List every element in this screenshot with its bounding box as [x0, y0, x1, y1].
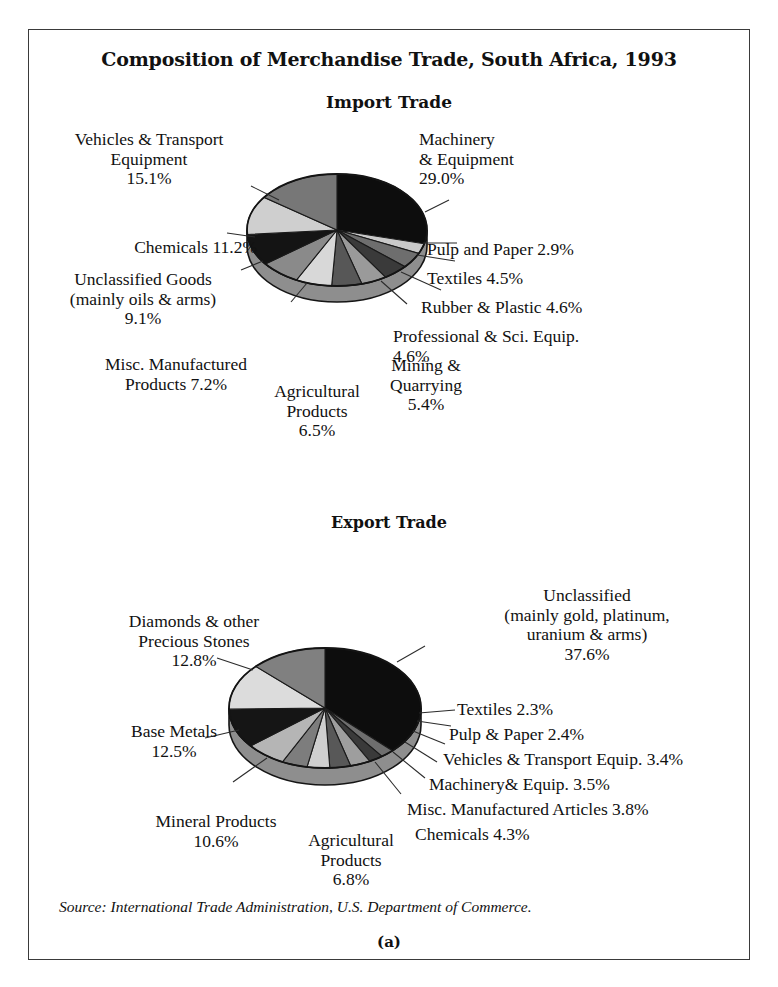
- import-label-rubber: Rubber & Plastic 4.6%: [421, 298, 701, 318]
- export-label-vehicles: Vehicles & Transport Equip. 3.4%: [443, 750, 763, 770]
- import-label-mining: Mining & Quarrying 5.4%: [367, 356, 485, 415]
- export-label-chemicals: Chemicals 4.3%: [415, 825, 695, 845]
- export-label-machinery: Machinery& Equip. 3.5%: [429, 775, 749, 795]
- export-label-diamonds: Diamonds & other Precious Stones 12.8%: [79, 612, 309, 671]
- export-label-pulp: Pulp & Paper 2.4%: [449, 725, 739, 745]
- import-label-pulp: Pulp and Paper 2.9%: [427, 240, 687, 260]
- export-chart-title: Export Trade: [29, 513, 749, 532]
- import-label-vehicles: Vehicles & Transport Equipment 15.1%: [39, 130, 259, 189]
- import-label-machinery: Machinery & Equipment 29.0%: [419, 130, 649, 189]
- figure-label: (a): [29, 933, 749, 951]
- import-label-agricultural: Agricultural Products 6.5%: [247, 382, 387, 441]
- export-label-base-metals: Base Metals 12.5%: [79, 722, 269, 761]
- export-label-misc: Misc. Manufactured Articles 3.8%: [407, 800, 747, 820]
- export-label-agricultural: Agricultural Products 6.8%: [277, 831, 425, 890]
- import-pie-chart: [29, 30, 751, 490]
- export-label-textiles: Textiles 2.3%: [457, 700, 737, 720]
- import-label-textiles: Textiles 4.5%: [427, 269, 687, 289]
- import-label-chemicals: Chemicals 11.2%: [29, 238, 257, 258]
- export-label-unclassified: Unclassified (mainly gold, platinum, ura…: [453, 586, 721, 664]
- figure-frame: Composition of Merchandise Trade, South …: [28, 29, 750, 960]
- import-label-unclassified: Unclassified Goods (mainly oils & arms) …: [29, 270, 257, 329]
- source-note: Source: International Trade Administrati…: [59, 898, 532, 916]
